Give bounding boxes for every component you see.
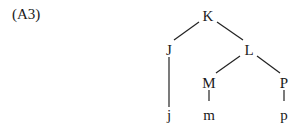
node-K: K [203,8,214,24]
node-P: P [280,75,288,91]
node-J: J [166,42,172,58]
node-m: m [203,107,215,123]
edge-L-M [216,56,240,73]
node-M: M [202,75,215,91]
node-j: j [166,107,171,123]
edge-K-J [174,22,199,40]
edge-L-P [257,56,280,73]
tree-diagram: K J L M P j m p [0,0,294,129]
edge-K-L [217,22,243,40]
node-p: p [280,107,288,123]
node-L: L [244,42,253,58]
